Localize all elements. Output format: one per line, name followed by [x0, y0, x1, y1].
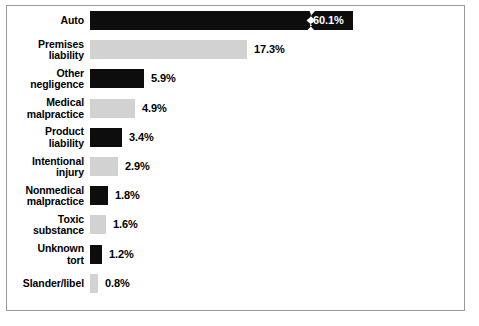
- bar-track: 1.2%: [90, 245, 464, 275]
- bar-track: 1.6%: [90, 215, 464, 245]
- bar-chart-plot-area: Auto60.1%Premisesliability17.3%Othernegl…: [7, 6, 464, 310]
- value-label: 4.9%: [142, 102, 167, 114]
- category-label: Medicalmalpractice: [7, 97, 84, 120]
- bar[interactable]: [90, 245, 102, 264]
- value-label: 1.2%: [109, 248, 134, 260]
- bar-row: Othernegligence5.9%: [7, 69, 464, 99]
- bar-row: Nonmedicalmalpractice1.8%: [7, 186, 464, 216]
- bar-track: 17.3%: [90, 40, 464, 70]
- category-label-line2: substance: [7, 225, 84, 237]
- bar[interactable]: [90, 99, 135, 118]
- bar[interactable]: [90, 157, 118, 176]
- bar-track: 0.8%: [90, 274, 464, 304]
- category-label-line2: tort: [7, 255, 84, 267]
- bar-row: Slander/libel0.8%: [7, 274, 464, 304]
- value-label: 1.8%: [115, 189, 140, 201]
- category-label-line1: Unknown: [7, 243, 84, 255]
- bar-track: 2.9%: [90, 157, 464, 187]
- bar[interactable]: [90, 40, 247, 59]
- value-label: 5.9%: [151, 72, 176, 84]
- category-label: Nonmedicalmalpractice: [7, 185, 84, 208]
- category-label-line2: liability: [7, 50, 84, 62]
- bar[interactable]: [90, 69, 144, 88]
- bar[interactable]: [90, 274, 98, 293]
- category-label: Auto: [7, 15, 84, 27]
- value-label: 17.3%: [254, 43, 285, 55]
- value-label: 0.8%: [105, 277, 130, 289]
- category-label: Unknowntort: [7, 243, 84, 266]
- value-label: 60.1%: [313, 14, 344, 26]
- value-label: 3.4%: [129, 131, 154, 143]
- category-label-line1: Medical: [7, 97, 84, 109]
- bar-row: Premisesliability17.3%: [7, 40, 464, 70]
- bar[interactable]: [90, 215, 106, 234]
- bar[interactable]: [90, 186, 108, 205]
- category-label: Productliability: [7, 126, 84, 149]
- value-label: 2.9%: [125, 160, 150, 172]
- category-label: Slander/libel: [7, 278, 84, 290]
- value-label: 1.6%: [113, 218, 138, 230]
- category-label: Intentionalinjury: [7, 156, 84, 179]
- bar[interactable]: [90, 128, 122, 147]
- bar-row: Productliability3.4%: [7, 128, 464, 158]
- bar-track: 1.8%: [90, 186, 464, 216]
- bar-row: Intentionalinjury2.9%: [7, 157, 464, 187]
- category-label: Premisesliability: [7, 39, 84, 62]
- category-label-line2: malpractice: [7, 109, 84, 121]
- bar-track: 5.9%: [90, 69, 464, 99]
- bar-track: 3.4%: [90, 128, 464, 158]
- bar-row: Auto60.1%: [7, 11, 464, 41]
- category-label: Othernegligence: [7, 68, 84, 91]
- category-label-line2: injury: [7, 167, 84, 179]
- category-label-line2: negligence: [7, 79, 84, 91]
- bar-track: 4.9%: [90, 99, 464, 129]
- bar-row: Unknowntort1.2%: [7, 245, 464, 275]
- category-label-line2: liability: [7, 138, 84, 150]
- category-label-line1: Auto: [7, 15, 84, 27]
- bar-row: Medicalmalpractice4.9%: [7, 99, 464, 129]
- chart-frame: Auto60.1%Premisesliability17.3%Othernegl…: [6, 5, 465, 311]
- category-label-line1: Slander/libel: [7, 278, 84, 290]
- category-label: Toxicsubstance: [7, 214, 84, 237]
- category-label-line2: malpractice: [7, 196, 84, 208]
- bar-track: 60.1%: [90, 11, 464, 41]
- bar-row: Toxicsubstance1.6%: [7, 215, 464, 245]
